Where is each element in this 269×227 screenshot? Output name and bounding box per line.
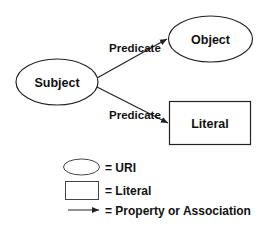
node-label-subject: Subject: [34, 76, 80, 90]
legend-text-property: = Property or Association: [105, 204, 251, 218]
edge-label-predicate-2: Predicate: [109, 109, 161, 121]
legend-ellipse-icon: [64, 159, 100, 175]
edge-label-predicate-1: Predicate: [109, 42, 161, 54]
node-label-object: Object: [191, 33, 231, 47]
node-label-literal: Literal: [191, 117, 229, 131]
node-literal: Literal: [170, 102, 251, 145]
edge-subject-object: Predicate: [97, 39, 167, 78]
legend-text-literal: = Literal: [105, 184, 151, 198]
node-object: Object: [169, 16, 253, 62]
rdf-triple-diagram: Predicate Predicate Subject Object Liter…: [0, 0, 269, 227]
legend-item-uri: = URI: [64, 159, 137, 175]
legend-rectangle-icon: [66, 182, 99, 200]
edge-subject-literal: Predicate: [97, 87, 168, 123]
node-subject: Subject: [16, 59, 98, 105]
legend: = URI = Literal = Property or Associatio…: [64, 159, 251, 218]
legend-item-property: = Property or Association: [68, 204, 251, 218]
legend-item-literal: = Literal: [66, 182, 152, 200]
legend-text-uri: = URI: [105, 161, 136, 175]
